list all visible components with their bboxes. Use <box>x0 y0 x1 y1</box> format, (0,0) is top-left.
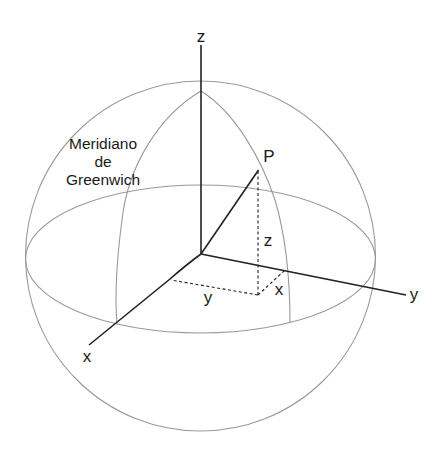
meridian-label-line1: Meridiano <box>69 135 137 152</box>
geocentric-coordinates-diagram: z y x P z y x Meridiano de Greenwich <box>0 0 439 451</box>
position-vector <box>201 170 259 254</box>
y-component-label: y <box>204 288 213 307</box>
y-projection <box>171 280 258 295</box>
point-label: P <box>263 147 274 166</box>
z-component-label: z <box>264 231 273 250</box>
x-axis-label: x <box>83 347 92 366</box>
x-axis <box>89 254 201 345</box>
meridian-label-line3: Greenwich <box>66 171 140 188</box>
x-component-label: x <box>275 280 284 299</box>
y-axis-label: y <box>410 285 419 304</box>
meridian-label-line2: de <box>94 153 111 170</box>
z-axis-label: z <box>197 27 206 46</box>
